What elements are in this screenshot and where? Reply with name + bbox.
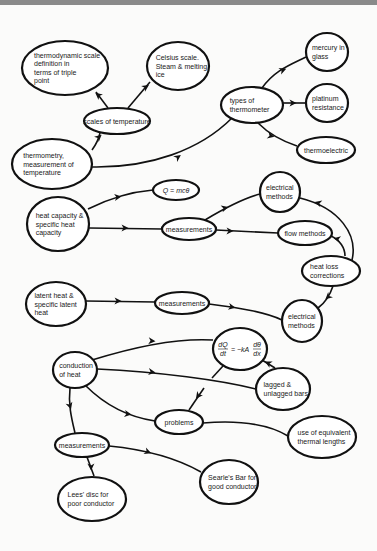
node-label: capacity — [36, 229, 62, 237]
node-label: latent heat & — [34, 292, 74, 299]
edge-meas2-to-elec2 — [209, 304, 282, 320]
node-label: heat loss — [310, 263, 339, 270]
edge-types-to-mercury — [262, 57, 306, 88]
formula-text: = −kA — [231, 346, 250, 353]
node-label: corrections — [310, 272, 345, 279]
node-thermo_scale: thermodynamic scaledefinition interms of… — [22, 41, 108, 95]
node-label: specific heat — [36, 221, 75, 229]
edge-meas1-to-elec1 — [205, 194, 260, 220]
node-label: terms of triple — [34, 69, 77, 77]
edge-conduction-to-problems — [86, 386, 155, 421]
edge-problems-to-equiv — [203, 422, 288, 436]
node-label: unlagged bars — [264, 390, 309, 398]
node-label: problems — [165, 419, 194, 427]
node-label: Searle's Bar for — [208, 474, 257, 481]
node-label: Steam & melting — [156, 63, 207, 71]
node-label: mercury in — [312, 44, 345, 52]
edge-fourier-to-problems — [212, 366, 223, 378]
node-thermometry: thermometry,measurement oftemperature — [12, 139, 92, 189]
node-label: poor conductor — [68, 500, 115, 508]
edge-meas1-to-flow — [216, 230, 278, 233]
node-q_mc: Q = mcθ — [153, 180, 199, 200]
node-fourier: dQdt= −kAdθdx — [213, 328, 267, 370]
node-elec2: electricalmethods — [282, 300, 322, 342]
nodes-layer: thermodynamic scaledefinition interms of… — [12, 33, 360, 521]
edge-meas3-to-searle — [109, 446, 201, 472]
node-mercury: mercury inglass — [306, 33, 348, 71]
node-searle: Searle's Bar forgood conductor — [200, 460, 258, 504]
node-label: thermoelectric — [304, 147, 348, 154]
node-label: methods — [266, 193, 293, 200]
formula-text: dθ — [253, 341, 261, 348]
node-label: measurements — [159, 300, 206, 307]
node-label: scales of temperature — [83, 118, 150, 126]
node-label: flow methods — [284, 230, 326, 237]
arrowhead-icon — [87, 463, 94, 470]
node-label: measurements — [59, 442, 106, 449]
node-label: thermodynamic scale — [34, 52, 100, 60]
edge-conduction-to-fourier — [92, 340, 213, 360]
node-label: specific latent — [34, 301, 76, 309]
edge-fourier-to-problems — [189, 388, 204, 410]
formula-text: dx — [253, 350, 261, 357]
node-label: thermometer — [230, 106, 270, 113]
node-heat_capacity: heat capacity &specific heatcapacity — [27, 197, 89, 251]
node-label: methods — [288, 322, 315, 329]
node-label: resistance — [312, 104, 344, 111]
node-label: Q = mcθ — [163, 187, 190, 195]
node-celsius: Celsius scale.Steam & meltingice — [147, 42, 209, 90]
node-problems: problems — [155, 410, 203, 434]
node-meas3: measurements — [55, 433, 109, 457]
node-label: ice — [156, 71, 165, 78]
node-scales: scales of temperature — [83, 108, 150, 134]
concept-map-canvas: thermodynamic scaledefinition interms of… — [0, 0, 377, 551]
node-label: heat capacity & — [36, 212, 84, 220]
node-lagged: lagged &unlagged bars — [256, 368, 310, 410]
node-label: heat — [34, 309, 48, 316]
node-meas2: measurements — [155, 292, 209, 314]
node-thermoelectric: thermoelectric — [297, 137, 355, 163]
node-label: conduction — [59, 362, 93, 369]
node-label: good conductor — [208, 483, 257, 491]
node-label: measurements — [166, 226, 213, 233]
node-label: temperature — [23, 169, 61, 177]
node-label: platinum — [312, 95, 339, 103]
node-elec1: electricalmethods — [260, 172, 300, 212]
edge-conduction-to-meas3 — [69, 388, 75, 433]
node-label: lagged & — [264, 381, 292, 389]
node-meas1: measurements — [162, 218, 216, 240]
node-label: Celsius scale. — [156, 54, 199, 61]
node-types: types ofthermometer — [221, 87, 283, 123]
node-label: electrical — [288, 313, 316, 320]
edge-types-to-thermoelectric — [258, 123, 297, 146]
node-label: point — [34, 77, 49, 85]
node-flow: flow methods — [278, 221, 332, 245]
node-latent: latent heat &specific latentheat — [26, 282, 86, 326]
node-equiv: use of equivalentthermal lengths — [288, 416, 356, 458]
arrowhead-icon — [148, 337, 155, 344]
node-heat_loss: heat losscorrections — [302, 256, 360, 286]
node-label: of heat — [59, 371, 80, 378]
arrowhead-icon — [221, 206, 229, 213]
node-conduction: conductionof heat — [53, 352, 97, 388]
formula-text: dQ — [218, 341, 228, 349]
node-platinum: platinumresistance — [306, 84, 348, 122]
node-label: thermal lengths — [298, 438, 346, 446]
node-label: Lees' disc for — [68, 491, 110, 498]
node-label: definition in — [34, 60, 70, 67]
edge-conduction-to-lagged — [97, 369, 256, 389]
node-lees: Lees' disc forpoor conductor — [58, 477, 126, 521]
node-label: use of equivalent — [298, 429, 351, 437]
arrowhead-icon — [173, 155, 181, 162]
arrowhead-icon — [148, 368, 155, 375]
node-label: glass — [312, 53, 329, 61]
edge-heat_capacity-to-q_mc — [88, 190, 153, 209]
node-label: electrical — [266, 184, 294, 191]
node-label: thermometry, — [23, 152, 64, 160]
node-label: measurement of — [23, 161, 74, 168]
node-label: types of — [230, 97, 255, 105]
